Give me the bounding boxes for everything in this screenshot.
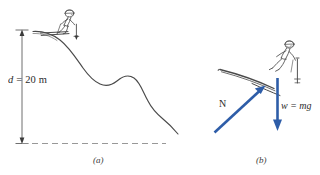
skier-figure-a [41,10,79,40]
normal-force-label: N [219,98,226,109]
weight-symbol: w [281,100,288,111]
panel-a: d=20m [8,10,178,144]
dimension-value: 20 [25,74,36,85]
skier-figure-b [269,41,300,83]
weight-expression: mg [299,100,311,111]
physics-figure: d=20m [0,0,320,175]
panel-a-caption: (a) [93,155,104,165]
ski-line [218,69,280,95]
dimension-symbol: d [8,74,13,85]
dimension-equals: = [16,74,22,85]
panel-b: N w=mg [215,41,320,133]
dimension-unit: m [39,74,47,85]
panel-b-caption: (b) [256,155,267,165]
weight-equals: = [291,100,297,111]
